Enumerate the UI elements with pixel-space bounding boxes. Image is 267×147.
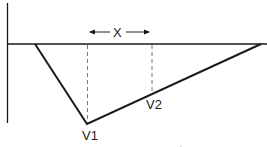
arrow-right-icon (144, 30, 150, 35)
stray-dot (180, 145, 181, 146)
v1-label: V1 (82, 128, 98, 143)
distance-label: X (113, 25, 122, 40)
profile-line (35, 44, 261, 124)
v2-label: V2 (146, 97, 162, 112)
arrow-left-icon (89, 30, 95, 35)
velocity-diagram: X V1 V2 (0, 0, 267, 147)
